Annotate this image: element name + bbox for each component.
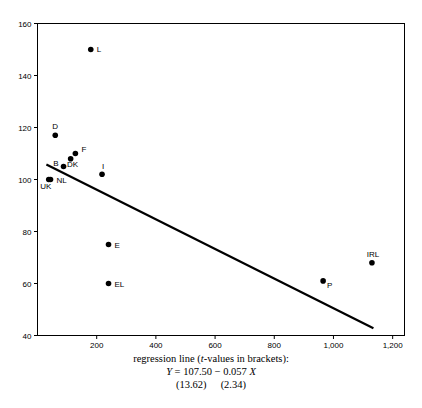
- data-point-label: EL: [115, 280, 125, 289]
- scatter-plot-svg: 406080100120140160 2004006008001,0001,20…: [0, 0, 422, 350]
- x-tick-label: 1,000: [323, 341, 344, 350]
- data-point-label: UK: [40, 182, 52, 191]
- y-tick-label: 60: [23, 280, 32, 289]
- x-tick-label: 200: [90, 341, 104, 350]
- y-tick-label: 160: [18, 20, 32, 29]
- caption-text-post: -values in brackets):: [204, 353, 289, 364]
- caption-text-pre: regression line (: [133, 353, 201, 364]
- data-point-marker: [106, 242, 112, 248]
- regression-line: [46, 164, 373, 328]
- data-point-label: NL: [57, 176, 68, 185]
- data-point-marker: [99, 172, 105, 178]
- data-point-label: I: [102, 162, 104, 171]
- tvalue-intercept: (13.62): [176, 378, 207, 391]
- data-point-marker: [52, 133, 58, 139]
- data-point-marker: [320, 278, 326, 284]
- caption-line-regression: regression line (t-values in brackets):: [0, 352, 422, 365]
- y-axis-ticks: 406080100120140160: [18, 20, 37, 341]
- equation-x-variable: X: [249, 366, 255, 377]
- data-point-markers: [46, 47, 375, 287]
- data-point-label: B: [53, 159, 58, 168]
- x-tick-label: 600: [208, 341, 222, 350]
- x-tick-label: 1,200: [383, 341, 404, 350]
- data-point-marker: [73, 151, 79, 157]
- y-tick-label: 100: [18, 176, 32, 185]
- y-tick-label: 40: [23, 332, 32, 341]
- data-point-label: L: [97, 45, 102, 54]
- data-point-marker: [106, 281, 112, 287]
- x-tick-label: 400: [149, 341, 163, 350]
- chart-caption: regression line (t-values in brackets): …: [0, 352, 422, 391]
- caption-line-tvalues: (13.62)(2.34): [0, 378, 422, 391]
- data-point-label: P: [327, 281, 332, 290]
- data-point-labels: LDFDKBINLUKEELPIRL: [40, 45, 380, 290]
- data-point-label: DK: [67, 160, 79, 169]
- x-axis-ticks: 2004006008001,0001,200: [90, 336, 403, 350]
- x-tick-label: 800: [268, 341, 282, 350]
- equation-body: = 107.50 − 0.057: [172, 366, 249, 377]
- chart-plot-area: 406080100120140160 2004006008001,0001,20…: [0, 0, 422, 350]
- y-tick-label: 80: [23, 228, 32, 237]
- y-tick-label: 140: [18, 72, 32, 81]
- data-point-marker: [369, 260, 375, 266]
- data-point-label: F: [81, 145, 86, 154]
- tvalue-slope: (2.34): [221, 378, 246, 391]
- axis-frame: [38, 24, 405, 336]
- data-point-label: E: [115, 241, 120, 250]
- scatter-plot-figure: 406080100120140160 2004006008001,0001,20…: [0, 0, 422, 408]
- data-point-label: IRL: [367, 250, 380, 259]
- data-point-label: D: [52, 122, 58, 131]
- caption-line-equation: Y = 107.50 − 0.057 X: [0, 365, 422, 378]
- data-point-marker: [88, 47, 94, 53]
- data-point-marker: [61, 164, 67, 170]
- y-tick-label: 120: [18, 124, 32, 133]
